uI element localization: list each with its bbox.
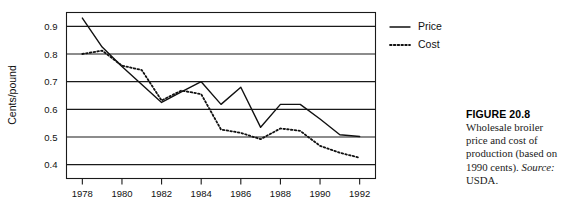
figure-caption-source-value: USDA. — [466, 174, 498, 186]
y-axis-tick-label: 0.7 — [44, 76, 57, 87]
figure-caption-body: Wholesale broiler price and cost of prod… — [466, 121, 562, 187]
x-axis-tick-label: 1984 — [191, 188, 212, 199]
x-axis-tick-label: 1992 — [349, 188, 370, 199]
chart-container: 0.40.50.60.70.80.9 197819801982198419861… — [0, 0, 460, 217]
y-axis-tick-label: 0.9 — [44, 21, 57, 32]
figure-caption-source-label: Source: — [521, 161, 554, 173]
line-chart: 0.40.50.60.70.80.9 197819801982198419861… — [0, 0, 460, 217]
figure-container: 0.40.50.60.70.80.9 197819801982198419861… — [0, 0, 566, 217]
y-axis-title: Cents/pound — [6, 65, 18, 125]
x-axis-tick-label: 1982 — [151, 188, 172, 199]
x-axis-tick-label: 1990 — [309, 188, 330, 199]
y-axis-tick-label: 0.6 — [44, 104, 57, 115]
figure-caption-heading: FIGURE 20.8 — [466, 108, 562, 120]
series-line-price — [82, 18, 359, 136]
legend-label-price: Price — [418, 20, 442, 32]
y-axis-tick-labels-group: 0.40.50.60.70.80.9 — [44, 21, 57, 170]
legend: Price Cost — [390, 20, 442, 50]
x-axis-tick-labels-group: 19781980198219841986198819901992 — [72, 188, 370, 199]
x-axis-tick-label: 1986 — [230, 188, 251, 199]
x-axis-tick-label: 1980 — [111, 188, 132, 199]
x-axis-tick-label: 1978 — [72, 188, 93, 199]
x-axis-ticks-group — [82, 179, 359, 185]
y-axis-tick-label: 0.5 — [44, 132, 57, 143]
figure-caption: FIGURE 20.8 Wholesale broiler price and … — [466, 108, 562, 187]
y-axis-tick-label: 0.8 — [44, 49, 57, 60]
legend-label-cost: Cost — [418, 38, 440, 50]
x-axis-tick-label: 1988 — [270, 188, 291, 199]
gridlines-group — [67, 26, 376, 164]
y-axis-tick-label: 0.4 — [44, 159, 57, 170]
plot-frame — [67, 13, 376, 179]
